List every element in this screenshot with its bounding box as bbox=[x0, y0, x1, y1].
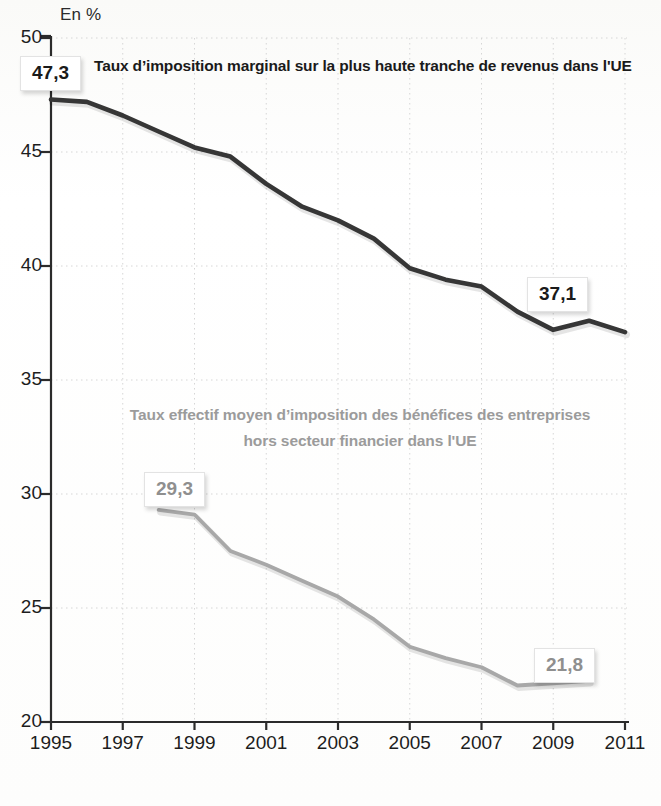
series-2-end-value-box: 21,8 bbox=[534, 648, 595, 683]
series-2-title: Taux effectif moyen d’imposition des bén… bbox=[120, 402, 600, 454]
series-2-start-value-box: 29,3 bbox=[144, 472, 205, 507]
y-axis-tick-label: 40 bbox=[2, 254, 42, 276]
x-axis-tick-label: 2009 bbox=[518, 732, 588, 754]
chart-container: En % 20 25 30 35 40 45 50 1995 1997 1999… bbox=[0, 0, 661, 806]
x-axis-tick-label: 2005 bbox=[375, 732, 445, 754]
series-1-start-value-box: 47,3 bbox=[20, 56, 81, 91]
x-axis-tick-label: 1997 bbox=[88, 732, 158, 754]
series-2-title-line-2: hors secteur financier dans l'UE bbox=[120, 428, 600, 454]
y-axis-tick-label: 30 bbox=[2, 482, 42, 504]
x-axis-tick-label: 1999 bbox=[160, 732, 230, 754]
x-axis-tick-label: 2003 bbox=[303, 732, 373, 754]
y-axis-tick-label: 45 bbox=[2, 140, 42, 162]
y-axis-tick-label: 25 bbox=[2, 596, 42, 618]
series-2-title-line-1: Taux effectif moyen d’imposition des bén… bbox=[120, 402, 600, 428]
y-axis-tick-label: 50 bbox=[2, 26, 42, 48]
y-axis-unit-label: En % bbox=[60, 5, 101, 25]
series-2-shadow bbox=[160, 512, 591, 688]
x-axis-tick-label: 2007 bbox=[447, 732, 517, 754]
y-axis-tick-label: 20 bbox=[2, 710, 42, 732]
series-1-end-value-box: 37,1 bbox=[527, 277, 588, 312]
y-axis-tick-label: 35 bbox=[2, 368, 42, 390]
x-axis-tick-label: 1995 bbox=[16, 732, 86, 754]
series-1-title: Taux d’imposition marginal sur la plus h… bbox=[94, 57, 632, 75]
x-axis-tick-label: 2001 bbox=[231, 732, 301, 754]
series-2-line bbox=[159, 510, 590, 686]
x-axis-tick-label: 2011 bbox=[590, 732, 660, 754]
